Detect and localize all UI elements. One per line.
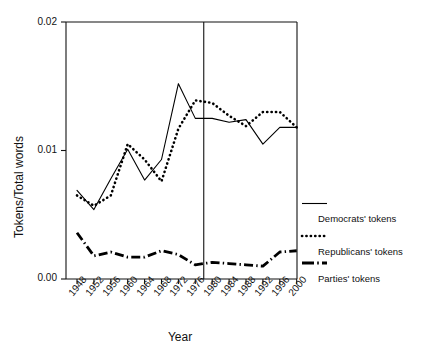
series-line-republicans	[77, 100, 297, 205]
chart-figure: 0.02 0.01 0.00 Tokens/Total words 1948 1…	[0, 0, 431, 353]
series-line-democrats	[77, 84, 297, 210]
x-axis-title: Year	[0, 330, 360, 344]
y-axis-ticks	[61, 22, 66, 279]
y-tick-label-mid: 0.01	[24, 144, 57, 155]
plot-frame	[66, 22, 297, 279]
y-tick-label-bottom: 0.00	[24, 272, 57, 283]
legend-label-republicans: Republicans' tokens	[318, 246, 403, 257]
series-line-parties	[77, 233, 297, 266]
legend-label-parties: Parties' tokens	[318, 273, 380, 284]
y-axis-title: Tokens/Total words	[12, 136, 26, 238]
y-tick-label-top: 0.02	[24, 16, 57, 27]
chart-canvas	[0, 0, 431, 353]
legend-label-democrats: Democrats' tokens	[318, 213, 396, 224]
